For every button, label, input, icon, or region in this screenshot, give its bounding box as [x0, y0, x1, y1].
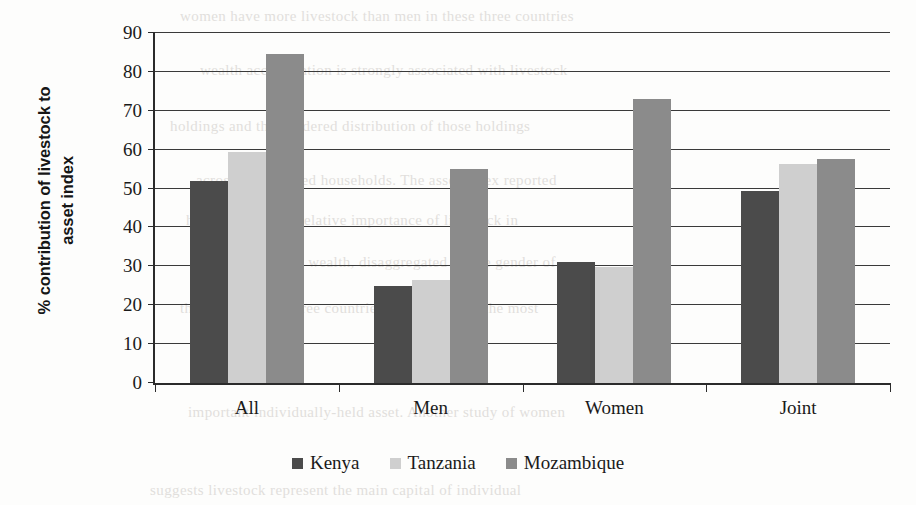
legend-label: Kenya	[310, 452, 360, 474]
background-text-line: suggests livestock represent the main ca…	[150, 482, 521, 499]
bar-group-men	[339, 33, 523, 383]
x-axis-label-joint: Joint	[780, 397, 817, 419]
bar-kenya-men	[374, 286, 412, 383]
legend-label: Tanzania	[408, 452, 476, 474]
bar-kenya-joint	[741, 191, 779, 384]
x-axis-tick	[523, 383, 524, 392]
y-axis-tick	[148, 110, 155, 111]
bar-tanzania-joint	[779, 164, 817, 383]
y-axis-tick	[148, 343, 155, 344]
bar-mozambique-joint	[817, 159, 855, 383]
legend-item-tanzania[interactable]: Tanzania	[390, 452, 476, 474]
x-axis-label-women: Women	[585, 397, 644, 419]
y-axis-tick	[148, 32, 155, 33]
chart-legend: KenyaTanzaniaMozambique	[0, 452, 916, 474]
figure-page: women have more livestock than men in th…	[0, 0, 916, 505]
bar-group-all	[155, 33, 339, 383]
bar-mozambique-women	[633, 99, 671, 383]
y-axis-tick-label: 40	[123, 216, 142, 238]
background-text-line: women have more livestock than men in th…	[180, 8, 574, 25]
y-axis-tick	[148, 188, 155, 189]
y-axis-tick-label: 50	[123, 178, 142, 200]
y-axis-tick	[148, 71, 155, 72]
legend-swatch-tanzania-icon	[390, 458, 401, 469]
legend-label: Mozambique	[524, 452, 624, 474]
bar-mozambique-men	[450, 169, 488, 383]
y-axis-tick-label: 80	[123, 61, 142, 83]
bar-group-joint	[706, 33, 890, 383]
legend-item-mozambique[interactable]: Mozambique	[506, 452, 624, 474]
legend-swatch-mozambique-icon	[506, 458, 517, 469]
plot-area: 0102030405060708090 AllMenWomenJoint	[153, 33, 890, 385]
legend-swatch-kenya-icon	[292, 458, 303, 469]
y-axis-tick-label: 10	[123, 333, 142, 355]
y-axis-title-line1: % contribution of livestock to	[35, 86, 53, 314]
x-axis-label-all: All	[235, 397, 259, 419]
bar-kenya-women	[557, 262, 595, 383]
y-axis-tick-label: 0	[133, 372, 143, 394]
x-axis-tick	[339, 383, 340, 392]
x-axis-label-men: Men	[413, 397, 448, 419]
legend-item-kenya[interactable]: Kenya	[292, 452, 360, 474]
bar-tanzania-men	[412, 280, 450, 383]
y-axis-title-line2: asset index	[58, 156, 76, 245]
x-axis-tick	[155, 383, 156, 392]
bar-kenya-all	[190, 181, 228, 383]
bar-group-women	[523, 33, 707, 383]
y-axis-tick-label: 30	[123, 255, 142, 277]
x-axis-tick	[706, 383, 707, 392]
y-axis-tick-label: 20	[123, 294, 142, 316]
y-axis-tick-label: 90	[123, 22, 142, 44]
y-axis-tick	[148, 304, 155, 305]
bar-tanzania-women	[595, 267, 633, 383]
y-axis-tick	[148, 382, 155, 383]
y-axis-tick-label: 70	[123, 100, 142, 122]
y-axis-tick	[148, 149, 155, 150]
y-axis-tick-label: 60	[123, 139, 142, 161]
bar-mozambique-all	[266, 54, 304, 383]
bar-tanzania-all	[228, 152, 266, 383]
bar-series-container	[155, 33, 890, 383]
y-axis-tick	[148, 265, 155, 266]
y-axis-tick	[148, 226, 155, 227]
x-axis-tick	[890, 383, 891, 392]
y-axis-title: % contribution of livestock to asset ind…	[14, 0, 98, 400]
